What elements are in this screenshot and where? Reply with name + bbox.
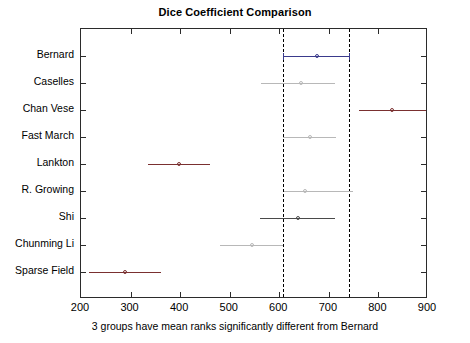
x-axis-tick-top xyxy=(378,29,379,34)
mean-rank-marker-lankton[interactable] xyxy=(177,162,181,166)
y-axis-tick xyxy=(81,245,86,246)
x-axis-tick-label: 900 xyxy=(404,301,450,313)
interval-cap-bernard-upper xyxy=(349,53,350,60)
x-axis-tick xyxy=(180,292,181,297)
y-axis-tick xyxy=(81,191,86,192)
y-axis-category-label-fast-march: Fast March xyxy=(0,129,74,141)
x-axis-tick-top xyxy=(180,29,181,34)
y-axis-category-label-sparse-field: Sparse Field xyxy=(0,264,74,276)
x-axis-tick-top xyxy=(230,29,231,34)
y-axis-tick-right xyxy=(421,245,426,246)
y-axis-category-label-r-growing: R. Growing xyxy=(0,183,74,195)
y-axis-tick xyxy=(81,218,86,219)
plot-inner-layer xyxy=(81,29,426,297)
y-axis-tick-right xyxy=(421,83,426,84)
x-axis-tick-label: 800 xyxy=(354,301,400,313)
x-axis-tick-label: 400 xyxy=(156,301,202,313)
figure-canvas: Dice Coefficient Comparison 200300400500… xyxy=(0,0,470,343)
reference-line-lower xyxy=(283,29,284,297)
chart-title: Dice Coefficient Comparison xyxy=(0,6,470,18)
y-axis-category-label-shi: Shi xyxy=(0,210,74,222)
y-axis-tick xyxy=(81,272,86,273)
x-axis-tick xyxy=(230,292,231,297)
x-axis-tick-label: 200 xyxy=(57,301,103,313)
y-axis-tick xyxy=(81,137,86,138)
mean-rank-marker-fast-march[interactable] xyxy=(308,135,312,139)
y-axis-tick-right xyxy=(421,164,426,165)
x-axis-tick xyxy=(131,292,132,297)
x-axis-tick-label: 500 xyxy=(206,301,252,313)
interval-line-r-growing[interactable] xyxy=(284,191,353,192)
y-axis-tick-right xyxy=(421,56,426,57)
y-axis-tick-right xyxy=(421,218,426,219)
y-axis-category-label-bernard: Bernard xyxy=(0,48,74,60)
y-axis-tick-right xyxy=(421,191,426,192)
x-axis-tick-top xyxy=(279,29,280,34)
y-axis-tick-right xyxy=(421,137,426,138)
y-axis-category-label-lankton: Lankton xyxy=(0,156,74,168)
y-axis-tick xyxy=(81,164,86,165)
mean-rank-marker-r-growing[interactable] xyxy=(303,189,307,193)
mean-rank-marker-sparse-field[interactable] xyxy=(123,270,127,274)
x-axis-tick-top xyxy=(131,29,132,34)
y-axis-tick xyxy=(81,83,86,84)
plot-area[interactable] xyxy=(80,28,427,298)
x-axis-tick-top xyxy=(329,29,330,34)
x-axis-tick xyxy=(378,292,379,297)
y-axis-category-label-chunming-li: Chunming Li xyxy=(0,237,74,249)
reference-line-upper xyxy=(349,29,350,297)
x-axis-caption: 3 groups have mean ranks significantly d… xyxy=(0,320,470,332)
y-axis-tick xyxy=(81,56,86,57)
mean-rank-marker-chan-vese[interactable] xyxy=(390,108,394,112)
x-axis-tick xyxy=(329,292,330,297)
mean-rank-marker-shi[interactable] xyxy=(296,216,300,220)
y-axis-tick xyxy=(81,110,86,111)
y-axis-category-label-chan-vese: Chan Vese xyxy=(0,102,74,114)
x-axis-tick-label: 300 xyxy=(107,301,153,313)
mean-rank-marker-chunming-li[interactable] xyxy=(250,243,254,247)
interval-line-caselles[interactable] xyxy=(261,83,335,84)
interval-cap-bernard-lower xyxy=(283,53,284,60)
x-axis-tick xyxy=(279,292,280,297)
x-axis-tick-label: 700 xyxy=(305,301,351,313)
y-axis-category-label-caselles: Caselles xyxy=(0,75,74,87)
y-axis-tick-right xyxy=(421,272,426,273)
mean-rank-marker-caselles[interactable] xyxy=(299,81,303,85)
mean-rank-marker-bernard[interactable] xyxy=(315,54,319,58)
x-axis-tick-label: 600 xyxy=(255,301,301,313)
